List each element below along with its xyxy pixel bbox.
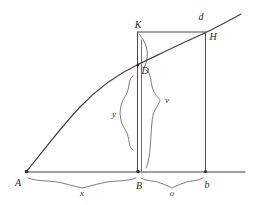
label-point-H: H xyxy=(208,31,217,42)
vertex-dot-B xyxy=(136,170,139,173)
vertex-dot-A xyxy=(25,170,28,173)
label-ordinate-v: v xyxy=(165,95,169,105)
label-point-B: B xyxy=(136,180,142,191)
brace-x xyxy=(28,178,136,188)
label-segment-x: x xyxy=(79,188,84,198)
vertex-dot-D xyxy=(137,64,140,67)
geometric-diagram-figure: A B b K H d D x o y v xyxy=(0,0,255,205)
figure-canvas: A B b K H d D x o y v xyxy=(0,0,255,205)
label-point-b-right: b xyxy=(205,179,210,190)
label-point-K: K xyxy=(134,19,143,30)
label-ordinate-y: y xyxy=(111,109,116,119)
vertex-dot-b xyxy=(204,170,207,173)
label-point-d-upper: d xyxy=(199,11,205,22)
brace-v xyxy=(146,70,160,168)
brace-y xyxy=(120,76,133,150)
label-segment-o: o xyxy=(170,188,175,198)
label-point-D-inner: D xyxy=(140,65,149,76)
label-point-A: A xyxy=(14,177,22,188)
brace-o xyxy=(141,178,203,188)
